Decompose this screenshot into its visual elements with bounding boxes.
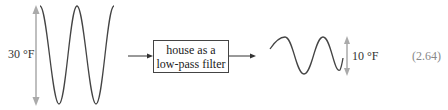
- output-amplitude-label: 10 °F: [352, 49, 378, 64]
- output-temperature-wave: [270, 37, 343, 74]
- output-flow-arrow: [228, 54, 256, 59]
- filter-box-line2: low-pass filter: [154, 57, 228, 71]
- low-pass-filter-box: house as a low-pass filter: [153, 40, 229, 73]
- filter-box-line1: house as a: [154, 43, 228, 57]
- equation-number: (2.64): [412, 49, 441, 64]
- input-flow-arrow: [128, 54, 153, 59]
- input-temperature-wave: [40, 6, 114, 104]
- input-amplitude-label: 30 °F: [8, 47, 34, 62]
- output-amplitude-arrow: [344, 36, 350, 76]
